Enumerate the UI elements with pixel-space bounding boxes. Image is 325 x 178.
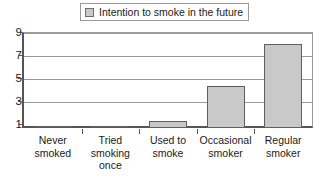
x-label-never-smoked: Neversmoked: [24, 134, 82, 178]
x-label-used-to-smoke: Used tosmoke: [139, 134, 197, 178]
bar-tried-smoking-once[interactable]: [91, 126, 129, 128]
legend-swatch-icon: [85, 8, 94, 17]
bar-slot-tried-smoking-once: [82, 33, 140, 128]
bar-slot-used-to-smoke: [139, 33, 197, 128]
y-tick-mark-9: [18, 32, 22, 33]
x-axis-labels: Neversmoked Triedsmokingonce Used tosmok…: [24, 134, 312, 178]
bar-slot-occasional-smoker: [197, 33, 255, 128]
y-tick-mark-5: [18, 78, 22, 79]
y-tick-mark-1: [18, 124, 22, 125]
bar-used-to-smoke[interactable]: [149, 121, 187, 128]
y-tick-mark-7: [18, 55, 22, 56]
bar-never-smoked[interactable]: [34, 126, 72, 128]
bar-slot-regular-smoker: [254, 33, 312, 128]
legend-label: Intention to smoke in the future: [99, 7, 243, 18]
bars-layer: [24, 33, 312, 128]
chart-legend: Intention to smoke in the future: [80, 3, 249, 21]
bar-regular-smoker[interactable]: [264, 44, 302, 128]
bar-slot-never-smoked: [24, 33, 82, 128]
x-label-regular-smoker: Regularsmoker: [254, 134, 312, 178]
x-label-occasional-smoker: Occasionalsmoker: [197, 134, 255, 178]
y-tick-mark-3: [18, 101, 22, 102]
x-label-tried-smoking-once: Triedsmokingonce: [82, 134, 140, 178]
bar-occasional-smoker[interactable]: [207, 86, 245, 128]
bar-chart: Intention to smoke in the future 9 7 5 3…: [0, 0, 325, 178]
y-axis: 9 7 5 3 1: [0, 32, 22, 128]
